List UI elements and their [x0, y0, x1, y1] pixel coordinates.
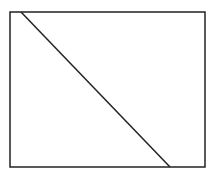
diagram-canvas: [0, 0, 217, 179]
rectangle-frame: [10, 12, 205, 167]
diagonal-line: [21, 12, 170, 167]
